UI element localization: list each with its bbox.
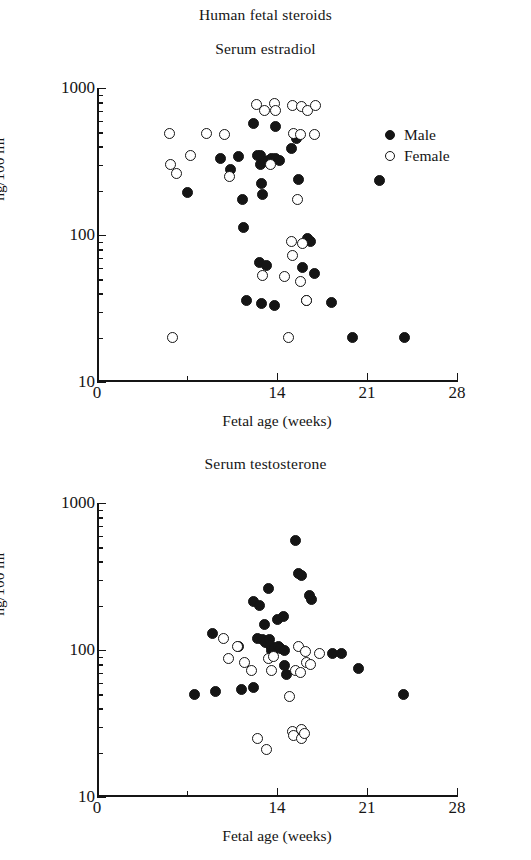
y-axis-minor-tick	[97, 165, 103, 166]
y-axis-minor-tick	[97, 146, 103, 147]
x-axis-major-tick	[367, 373, 368, 382]
y-axis-minor-tick	[97, 580, 103, 581]
data-point-female	[284, 691, 295, 702]
data-point-female	[224, 171, 235, 182]
y-axis-tick-label: 100	[25, 641, 95, 658]
y-axis-minor-tick	[97, 694, 103, 695]
x-axis-tick-label: 0	[72, 799, 122, 816]
data-point-female	[286, 236, 297, 247]
legend-label-female: Female	[404, 148, 450, 164]
data-point-female	[201, 128, 212, 139]
y-axis-minor-tick	[97, 102, 103, 103]
data-point-male	[293, 174, 304, 185]
data-point-male	[297, 262, 308, 273]
data-point-female	[309, 129, 320, 140]
y-axis-tick-label: 1000	[25, 79, 95, 96]
data-point-female	[295, 129, 306, 140]
data-point-male	[248, 682, 259, 693]
x-axis-major-tick	[457, 788, 458, 797]
y-axis-minor-tick	[97, 753, 103, 754]
y-axis-major-tick	[97, 503, 106, 504]
y-axis-minor-tick	[97, 279, 103, 280]
y-axis-tick-label: 100	[25, 226, 95, 243]
y-axis-minor-tick	[97, 258, 103, 259]
data-point-male	[398, 689, 409, 700]
data-point-female	[223, 653, 234, 664]
y-axis-minor-tick	[97, 673, 103, 674]
y-axis-minor-tick	[97, 95, 103, 96]
data-point-female	[299, 728, 310, 739]
data-point-female	[287, 250, 298, 261]
data-point-male	[207, 628, 218, 639]
open-circle-icon	[385, 151, 395, 161]
data-point-male	[182, 187, 193, 198]
y-axis-major-tick	[97, 88, 106, 89]
data-point-female	[268, 651, 279, 662]
x-axis-tick-label: 28	[432, 799, 482, 816]
y-axis-minor-tick	[97, 708, 103, 709]
data-point-female	[265, 159, 276, 170]
y-axis-minor-tick	[97, 727, 103, 728]
x-axis-minor-tick	[187, 376, 188, 382]
data-point-male	[237, 194, 248, 205]
data-point-male	[215, 153, 226, 164]
data-point-female	[261, 744, 272, 755]
figure-main-title: Human fetal steroids	[0, 6, 531, 24]
data-point-male	[248, 118, 259, 129]
data-point-male	[296, 570, 307, 581]
data-point-female	[305, 659, 316, 670]
data-point-female	[270, 105, 281, 116]
data-point-female	[283, 332, 294, 343]
data-point-male	[270, 121, 281, 132]
x-axis-title-testosterone: Fetal age (weeks)	[97, 827, 457, 845]
data-point-female	[164, 128, 175, 139]
data-point-male	[233, 151, 244, 162]
y-axis-major-tick	[97, 235, 106, 236]
data-point-male	[374, 175, 385, 186]
data-point-male	[347, 332, 358, 343]
data-point-female	[266, 665, 277, 676]
x-axis-minor-tick	[187, 791, 188, 797]
data-point-female	[219, 129, 230, 140]
data-point-male	[326, 297, 337, 308]
data-point-female	[292, 194, 303, 205]
data-point-male	[279, 645, 290, 656]
y-axis-minor-tick	[97, 121, 103, 122]
y-axis-minor-tick	[97, 517, 103, 518]
data-point-male	[257, 189, 268, 200]
y-axis-minor-tick	[97, 657, 103, 658]
y-axis-minor-tick	[97, 561, 103, 562]
y-axis-minor-tick	[97, 338, 103, 339]
data-point-female	[301, 295, 312, 306]
x-axis-tick-label: 21	[342, 384, 392, 401]
data-point-female	[252, 733, 263, 744]
legend-estradiol: Male Female	[385, 124, 450, 166]
legend-row-male: Male	[385, 124, 450, 145]
y-axis-minor-tick	[97, 606, 103, 607]
legend-label-male: Male	[404, 127, 436, 143]
data-point-male	[210, 686, 221, 697]
x-axis-title-estradiol: Fetal age (weeks)	[97, 412, 457, 430]
y-axis-tick-label: 1000	[25, 494, 95, 511]
data-point-male	[306, 594, 317, 605]
panel-title-testosterone: Serum testosterone	[0, 455, 531, 473]
y-axis-minor-tick	[97, 510, 103, 511]
data-point-female	[259, 105, 270, 116]
y-axis-minor-tick	[97, 132, 103, 133]
data-point-male	[353, 663, 364, 674]
data-point-male	[238, 222, 249, 233]
panel-serum-testosterone: Serum testosterone 1010010000142128 Feta…	[0, 455, 531, 860]
x-axis-tick-label: 14	[252, 384, 302, 401]
panel-title-estradiol: Serum estradiol	[0, 40, 531, 58]
data-point-female	[246, 665, 257, 676]
data-point-male	[241, 295, 252, 306]
data-point-male	[259, 619, 270, 630]
data-point-male	[256, 178, 267, 189]
x-axis-major-tick	[97, 373, 98, 382]
data-point-female	[185, 150, 196, 161]
data-point-male	[263, 583, 274, 594]
data-point-female	[297, 238, 308, 249]
y-axis-minor-tick	[97, 312, 103, 313]
data-point-male	[236, 684, 247, 695]
y-axis-title-estradiol: ng/100 ml	[0, 137, 8, 200]
